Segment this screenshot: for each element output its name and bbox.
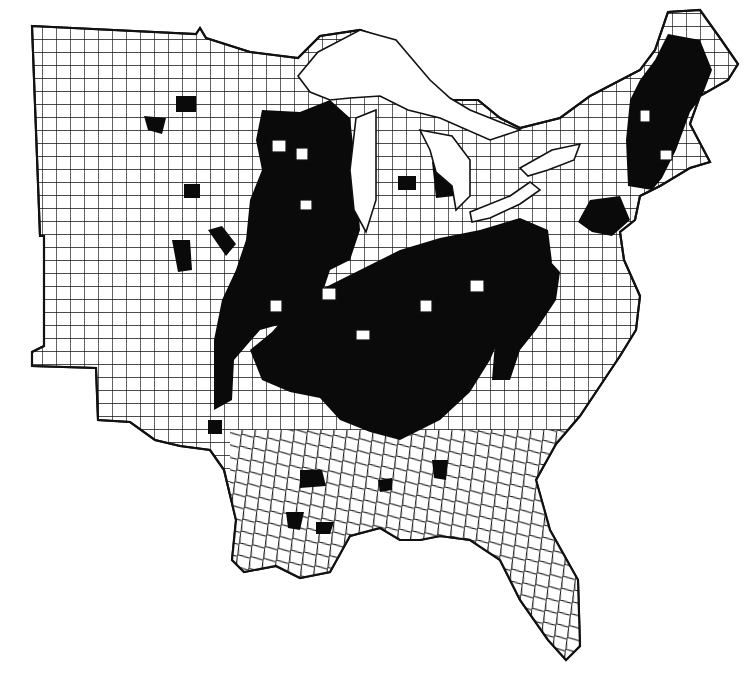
county-choropleth-map bbox=[0, 0, 754, 673]
